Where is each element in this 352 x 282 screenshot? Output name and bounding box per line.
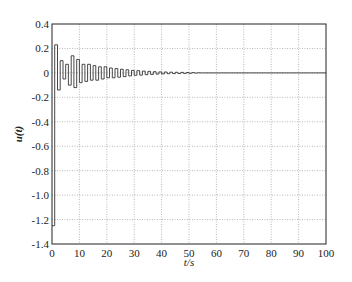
chart: 0102030405060708090100 0.40.20-0.2-0.4-0… xyxy=(0,0,352,282)
y-tick-label: 0 xyxy=(44,67,50,79)
y-tick-label: 0.4 xyxy=(35,18,49,30)
x-tick-label: 60 xyxy=(211,247,223,259)
x-tick-label: 100 xyxy=(318,247,335,259)
y-tick-label: -0.2 xyxy=(32,91,49,103)
x-tick-label: 90 xyxy=(293,247,305,259)
y-tick-label: -1.0 xyxy=(32,189,50,201)
x-tick-label: 70 xyxy=(238,247,250,259)
x-tick-label: 10 xyxy=(74,247,86,259)
y-axis-label: u(t) xyxy=(12,126,25,143)
x-tick-label: 30 xyxy=(129,247,141,259)
x-tick-label: 40 xyxy=(156,247,168,259)
x-tick-label: 80 xyxy=(266,247,278,259)
y-tick-label: 0.2 xyxy=(35,42,49,54)
y-tick-label: -0.4 xyxy=(32,116,50,128)
x-tick-label: 0 xyxy=(49,247,55,259)
y-axis-ticks: 0.40.20-0.2-0.4-0.6-0.8-1.0-1.2-1.4 xyxy=(32,18,50,250)
y-tick-label: -0.8 xyxy=(32,165,50,177)
y-tick-label: -1.2 xyxy=(32,214,49,226)
x-tick-label: 20 xyxy=(101,247,113,259)
grid-lines xyxy=(52,24,326,244)
x-axis-label: t/s xyxy=(184,256,194,268)
y-tick-label: -0.6 xyxy=(32,140,50,152)
y-tick-label: -1.4 xyxy=(32,238,50,250)
